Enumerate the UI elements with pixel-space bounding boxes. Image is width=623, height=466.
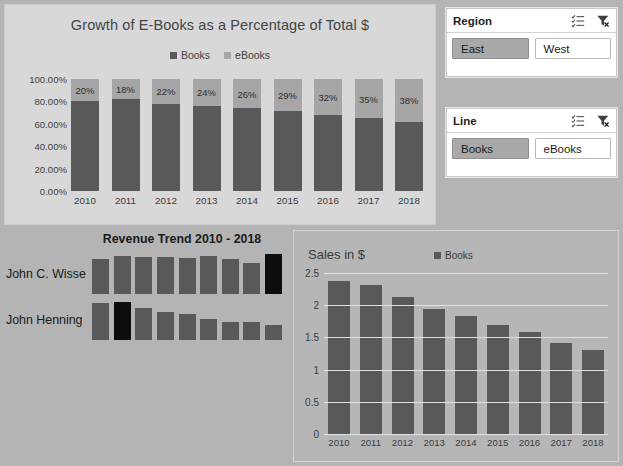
stacked-y-tick: 100.00% — [29, 74, 67, 85]
sales-x-tick: 2016 — [519, 437, 541, 448]
stacked-segment-books — [152, 104, 180, 191]
sales-x-tick: 2014 — [455, 437, 477, 448]
sales-y-tick: 0.5 — [305, 396, 319, 407]
sales-y-tick: 1 — [313, 364, 319, 375]
trend-bar — [157, 312, 174, 340]
sales-gridline — [324, 273, 608, 274]
stacked-data-label: 20% — [71, 85, 99, 96]
sales-bar-slot — [328, 273, 350, 434]
stacked-segment-ebooks: 32% — [314, 79, 342, 115]
slicer-region-buttons: East West — [447, 33, 616, 64]
sales-gridline — [324, 402, 608, 403]
trend-bar — [243, 322, 260, 340]
legend-item-books: Books — [170, 49, 210, 61]
sales-bar — [360, 285, 382, 434]
trend-bar — [200, 256, 217, 294]
trend-bar — [114, 302, 131, 340]
sales-chart[interactable]: Sales in $ Books 2.521.510.50 2010201120… — [293, 230, 619, 462]
trend-row-bars — [92, 300, 282, 340]
stacked-x-tick: 2018 — [395, 195, 423, 206]
sales-y-tick: 2 — [313, 300, 319, 311]
legend-swatch-books — [170, 52, 177, 59]
sales-bar-slot — [519, 273, 541, 434]
slicer-button-east[interactable]: East — [452, 38, 529, 59]
sales-y-tick: 1.5 — [305, 332, 319, 343]
slicer-line-buttons: Books eBooks — [447, 133, 616, 164]
multi-select-icon[interactable] — [571, 114, 585, 128]
stacked-x-tick: 2010 — [71, 195, 99, 206]
stacked-data-label: 35% — [355, 93, 383, 104]
stacked-data-label: 22% — [152, 86, 180, 97]
stacked-segment-ebooks: 24% — [193, 79, 221, 106]
slicer-line-icons — [571, 114, 610, 128]
slicer-button-books[interactable]: Books — [452, 138, 529, 159]
legend-item-ebooks: eBooks — [224, 49, 270, 61]
trend-row-bars — [92, 254, 282, 294]
stacked-segment-ebooks: 29% — [274, 79, 302, 111]
multi-select-icon[interactable] — [571, 14, 585, 28]
trend-row-label: John C. Wisse — [4, 267, 88, 281]
stacked-bar-column: 20% — [71, 79, 99, 191]
stacked-segment-ebooks: 35% — [355, 79, 383, 118]
sales-bar — [455, 316, 477, 434]
stacked-x-tick: 2011 — [112, 195, 140, 206]
slicer-line[interactable]: Line — [446, 108, 617, 177]
stacked-segment-ebooks: 18% — [112, 79, 140, 99]
sales-x-tick: 2010 — [328, 437, 350, 448]
sales-chart-title: Sales in $ — [308, 247, 365, 262]
stacked-segment-books — [314, 115, 342, 191]
stacked-y-tick: 0.00% — [40, 186, 67, 197]
clear-filter-icon[interactable] — [596, 14, 610, 28]
slicer-button-ebooks[interactable]: eBooks — [535, 138, 612, 159]
sales-bar — [423, 309, 445, 434]
trend-bar — [243, 263, 260, 294]
stacked-bar-column: 38% — [395, 79, 423, 191]
trend-bar — [222, 259, 239, 294]
legend-label-books: Books — [445, 250, 473, 261]
sales-bar — [392, 297, 414, 434]
sales-bar — [519, 332, 541, 434]
sales-chart-plot-area: 2.521.510.50 — [324, 273, 608, 434]
trend-bar — [265, 254, 282, 294]
sales-bar — [487, 325, 509, 434]
sales-bar-slot — [550, 273, 572, 434]
trend-bar — [92, 303, 109, 340]
stacked-data-label: 26% — [233, 88, 261, 99]
stacked-chart-y-axis: 100.00%80.00%60.00%40.00%20.00%0.00% — [9, 73, 67, 197]
revenue-trend-title: Revenue Trend 2010 - 2018 — [84, 232, 280, 246]
sales-y-tick: 0 — [313, 429, 319, 440]
slicer-button-west[interactable]: West — [535, 38, 612, 59]
clear-filter-icon[interactable] — [596, 114, 610, 128]
sales-bar-slot — [392, 273, 414, 434]
sales-x-tick: 2015 — [487, 437, 509, 448]
sales-chart-x-axis: 201020112012201320142015201620172018 — [324, 437, 608, 448]
stacked-segment-ebooks: 20% — [71, 79, 99, 101]
stacked-y-tick: 80.00% — [34, 96, 67, 107]
stacked-x-tick: 2016 — [314, 195, 342, 206]
stacked-x-tick: 2013 — [193, 195, 221, 206]
stacked-x-tick: 2015 — [274, 195, 302, 206]
stacked-bar-column: 29% — [274, 79, 302, 191]
stacked-bar-column: 22% — [152, 79, 180, 191]
sales-gridline — [324, 337, 608, 338]
stacked-bar-column: 18% — [112, 79, 140, 191]
stacked-y-tick: 60.00% — [34, 118, 67, 129]
stacked-x-tick: 2014 — [233, 195, 261, 206]
sales-gridline — [324, 434, 608, 435]
stacked-bar-column: 35% — [355, 79, 383, 191]
trend-row-label: John Henning — [4, 313, 88, 327]
revenue-trend-chart[interactable]: Revenue Trend 2010 - 2018 John C. Wisse … — [4, 230, 286, 340]
trend-row-john-henning: John Henning — [4, 300, 286, 340]
stacked-chart-x-axis: 201020112012201320142015201620172018 — [71, 195, 423, 206]
trend-bar — [135, 257, 152, 294]
stacked-bar-column: 32% — [314, 79, 342, 191]
sales-bar — [550, 343, 572, 434]
stacked-percentage-chart[interactable]: Growth of E-Books as a Percentage of Tot… — [4, 4, 436, 225]
stacked-data-label: 38% — [395, 95, 423, 106]
stacked-x-tick: 2017 — [355, 195, 383, 206]
slicer-line-title: Line — [453, 115, 571, 127]
slicer-region[interactable]: Region — [446, 8, 617, 77]
stacked-data-label: 18% — [112, 84, 140, 95]
stacked-segment-books — [395, 122, 423, 191]
slicer-region-icons — [571, 14, 610, 28]
